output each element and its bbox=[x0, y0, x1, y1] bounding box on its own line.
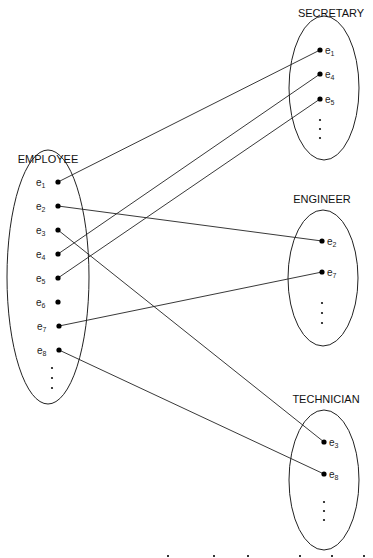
element-label: e1 bbox=[325, 45, 335, 58]
employee-ellipse bbox=[7, 150, 89, 404]
employee-element-e8: e8 bbox=[37, 345, 62, 358]
technician-label: TECHNICIAN bbox=[292, 393, 359, 405]
engineer-ellipse bbox=[288, 210, 358, 346]
point-icon bbox=[55, 203, 60, 208]
ellipsis-dot-icon bbox=[319, 137, 321, 139]
element-label: e7 bbox=[37, 321, 47, 334]
employee-element-e1: e1 bbox=[36, 177, 61, 190]
mapping-line-employee-e7-to-engineer-e7 bbox=[59, 272, 322, 326]
ellipsis-dot-icon bbox=[323, 519, 325, 521]
element-label: e7 bbox=[327, 267, 337, 280]
secretary-label: SECRETARY bbox=[298, 7, 365, 19]
element-label: e6 bbox=[36, 297, 46, 310]
technician-element-e3: e3 bbox=[321, 437, 338, 450]
engineer-element-e2: e2 bbox=[319, 236, 336, 249]
cutoff-mark bbox=[331, 555, 333, 557]
element-label: e3 bbox=[329, 437, 339, 450]
ellipsis-dot-icon bbox=[323, 501, 325, 503]
point-icon bbox=[321, 439, 326, 444]
mapping-line-employee-e8-to-technician-e8 bbox=[59, 350, 324, 474]
point-icon bbox=[56, 347, 61, 352]
point-icon bbox=[55, 227, 60, 232]
point-icon bbox=[319, 269, 324, 274]
point-icon bbox=[317, 96, 322, 101]
cutoff-mark bbox=[213, 555, 215, 557]
mapping-line-employee-e4-to-secretary-e4 bbox=[58, 74, 320, 254]
element-label: e5 bbox=[325, 94, 335, 107]
element-label: e4 bbox=[325, 69, 335, 82]
cutoff-mark bbox=[167, 555, 169, 557]
ellipsis-dot-icon bbox=[319, 128, 321, 130]
employee-element-e6: e6 bbox=[36, 297, 61, 310]
employee-element-e2: e2 bbox=[36, 201, 61, 214]
employee-element-e5: e5 bbox=[36, 273, 61, 286]
specialization-diagram: EMPLOYEEe1e2e3e4e5e6e7e8SECRETARYe1e4e5E… bbox=[0, 0, 373, 558]
mapping-line-employee-e3-to-technician-e3 bbox=[58, 230, 324, 442]
set-technician: TECHNICIANe3e8 bbox=[289, 393, 360, 550]
secretary-element-e4: e4 bbox=[317, 69, 334, 82]
secretary-element-e1: e1 bbox=[317, 45, 334, 58]
set-employee: EMPLOYEEe1e2e3e4e5e6e7e8 bbox=[7, 150, 89, 404]
entity-sets: EMPLOYEEe1e2e3e4e5e6e7e8SECRETARYe1e4e5E… bbox=[7, 7, 365, 550]
cutoff-text-fragments bbox=[167, 555, 365, 557]
element-label: e8 bbox=[329, 469, 339, 482]
element-label: e8 bbox=[37, 345, 47, 358]
ellipsis-dot-icon bbox=[321, 322, 323, 324]
mapping-line-employee-e5-to-secretary-e5 bbox=[58, 99, 320, 278]
element-label: e2 bbox=[36, 201, 46, 214]
point-icon bbox=[319, 238, 324, 243]
point-icon bbox=[55, 299, 60, 304]
cutoff-mark bbox=[247, 555, 249, 557]
point-icon bbox=[317, 71, 322, 76]
set-secretary: SECRETARYe1e4e5 bbox=[289, 7, 365, 160]
point-icon bbox=[55, 251, 60, 256]
element-label: e1 bbox=[36, 177, 46, 190]
cutoff-mark bbox=[299, 555, 301, 557]
point-icon bbox=[55, 275, 60, 280]
set-engineer: ENGINEERe2e7 bbox=[288, 193, 358, 346]
ellipsis-dot-icon bbox=[321, 312, 323, 314]
ellipsis-dot-icon bbox=[319, 119, 321, 121]
mapping-lines bbox=[58, 50, 324, 474]
element-label: e5 bbox=[36, 273, 46, 286]
mapping-line-employee-e2-to-engineer-e2 bbox=[58, 206, 322, 241]
ellipsis-dot-icon bbox=[321, 302, 323, 304]
engineer-label: ENGINEER bbox=[293, 193, 351, 205]
employee-label: EMPLOYEE bbox=[18, 153, 79, 165]
element-label: e3 bbox=[36, 225, 46, 238]
employee-element-e7: e7 bbox=[37, 321, 62, 334]
employee-element-e3: e3 bbox=[36, 225, 61, 238]
employee-element-e4: e4 bbox=[36, 249, 61, 262]
point-icon bbox=[56, 323, 61, 328]
point-icon bbox=[317, 47, 322, 52]
ellipsis-dot-icon bbox=[51, 377, 53, 379]
element-label: e2 bbox=[327, 236, 337, 249]
mapping-line-employee-e1-to-secretary-e1 bbox=[58, 50, 320, 182]
point-icon bbox=[55, 179, 60, 184]
point-icon bbox=[321, 471, 326, 476]
ellipsis-dot-icon bbox=[51, 387, 53, 389]
engineer-element-e7: e7 bbox=[319, 267, 336, 280]
secretary-element-e5: e5 bbox=[317, 94, 334, 107]
ellipsis-dot-icon bbox=[51, 367, 53, 369]
technician-ellipse bbox=[289, 410, 359, 550]
element-label: e4 bbox=[36, 249, 46, 262]
cutoff-mark bbox=[363, 555, 365, 557]
ellipsis-dot-icon bbox=[323, 510, 325, 512]
technician-element-e8: e8 bbox=[321, 469, 338, 482]
